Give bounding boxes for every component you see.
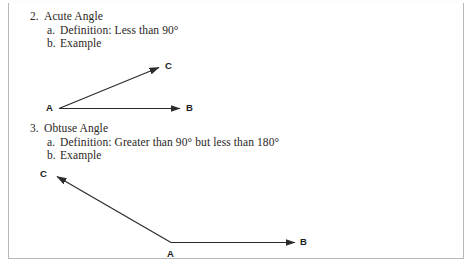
obtuse-ray-ac xyxy=(57,177,171,243)
obtuse-point-label-b: B xyxy=(300,236,307,247)
acute-point-label-c: C xyxy=(165,60,172,71)
outline-item-3-sub-b: b.Example xyxy=(47,149,102,162)
acute-ray-ac xyxy=(59,68,159,109)
outline-item-2-sub-b-text: Example xyxy=(60,37,102,49)
outline-item-3-title: Obtuse Angle xyxy=(44,122,108,134)
acute-point-label-b: B xyxy=(186,102,193,113)
outline-item-2-sub-a-text: Definition: Less than 90° xyxy=(60,24,179,36)
outline-item-3-sub-a: a.Definition: Greater than 90° but less … xyxy=(47,136,279,149)
acute-vertex-label-a: A xyxy=(46,102,53,113)
outline-item-3-sub-a-marker: a. xyxy=(47,136,60,149)
outline-item-2-sub-a-marker: a. xyxy=(47,24,60,37)
worksheet-page: 2.Acute Angle a.Definition: Less than 90… xyxy=(0,0,473,268)
outline-item-3-sub-a-text: Definition: Greater than 90° but less th… xyxy=(60,136,279,148)
outline-item-2-number: 2. xyxy=(30,10,44,23)
obtuse-point-label-c: C xyxy=(40,168,47,179)
outline-item-2-sub-b-marker: b. xyxy=(47,37,60,50)
outline-item-3: 3.Obtuse Angle xyxy=(30,122,108,135)
outline-item-3-sub-b-marker: b. xyxy=(47,149,60,162)
page-border-right xyxy=(463,3,464,259)
outline-item-2: 2.Acute Angle xyxy=(30,10,103,23)
outline-item-2-title: Acute Angle xyxy=(44,10,103,22)
outline-item-2-sub-a: a.Definition: Less than 90° xyxy=(47,24,179,37)
outline-item-3-number: 3. xyxy=(30,122,44,135)
page-top-edge xyxy=(9,0,464,3)
page-border-left xyxy=(8,3,9,259)
page-border-bottom xyxy=(8,258,464,259)
outline-item-2-sub-b: b.Example xyxy=(47,37,102,50)
obtuse-vertex-label-a: A xyxy=(167,248,174,259)
outline-item-3-sub-b-text: Example xyxy=(60,149,102,161)
